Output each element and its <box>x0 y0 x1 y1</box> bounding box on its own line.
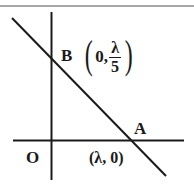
point-b-y-fraction: λ 5 <box>109 40 121 75</box>
origin-label: O <box>26 149 39 166</box>
point-b-coordinates: ( 0, λ 5 ) <box>82 36 135 78</box>
fraction-numerator: λ <box>109 40 121 56</box>
open-paren: ( <box>85 35 93 75</box>
point-b-x: 0, <box>95 47 108 67</box>
point-a-label: A <box>134 120 146 137</box>
close-paren: ) <box>125 35 133 75</box>
fraction-denominator: 5 <box>111 59 119 75</box>
point-b-label: B <box>61 47 72 64</box>
point-a-coordinates: (λ, 0) <box>89 150 124 166</box>
